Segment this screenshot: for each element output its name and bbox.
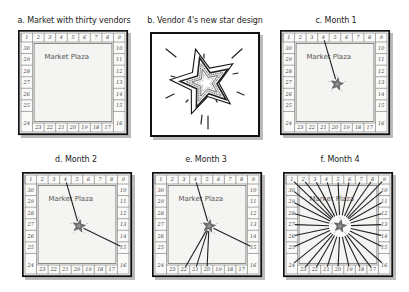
stall-15: 15 — [381, 244, 387, 250]
stall-10: 10 — [378, 45, 385, 51]
stall-30: 30 — [286, 45, 293, 51]
plaza-label: Market Plaza — [44, 53, 89, 61]
stall-28: 28 — [23, 68, 30, 74]
stall-27: 27 — [288, 221, 296, 227]
stall-5: 5 — [333, 34, 336, 40]
stall-28: 28 — [157, 210, 164, 216]
stall-13: 13 — [378, 79, 384, 85]
stall-29: 29 — [285, 56, 293, 62]
stall-5: 5 — [336, 176, 339, 182]
stall-23: 23 — [296, 124, 303, 130]
stall-3: 3 — [52, 176, 55, 182]
stall-8: 8 — [240, 176, 243, 182]
stall-2: 2 — [298, 34, 302, 40]
panel-f-market-month4: Market Plaza1234567891011121314151617181… — [283, 172, 397, 281]
stall-13: 13 — [250, 221, 256, 227]
stall-26: 26 — [27, 233, 35, 239]
stall-4: 4 — [63, 176, 67, 182]
stall-1: 1 — [290, 176, 293, 182]
stall-3: 3 — [313, 176, 316, 182]
stall-19: 19 — [346, 266, 353, 272]
stall-27: 27 — [285, 79, 293, 85]
stall-30: 30 — [28, 187, 35, 193]
stall-19: 19 — [85, 266, 92, 272]
stall-28: 28 — [285, 68, 292, 74]
stall-29: 29 — [23, 56, 31, 62]
stall-18: 18 — [93, 124, 99, 130]
panel-c-market-month1: Market Plaza1234567891011121314151617181… — [280, 30, 394, 139]
panel-e-market-month3: Market Plaza1234567891011121314151617181… — [152, 172, 266, 281]
stall-17: 17 — [238, 266, 245, 272]
stall-19: 19 — [215, 266, 222, 272]
stall-1: 1 — [287, 34, 290, 40]
stall-10: 10 — [250, 187, 257, 193]
stall-14: 14 — [250, 233, 256, 239]
stall-26: 26 — [288, 233, 296, 239]
stall-21: 21 — [322, 266, 329, 272]
stall-8: 8 — [106, 34, 109, 40]
stall-25: 25 — [27, 244, 34, 250]
stall-22: 22 — [311, 266, 318, 272]
stall-10: 10 — [120, 187, 127, 193]
stall-8: 8 — [371, 176, 374, 182]
stall-13: 13 — [120, 221, 126, 227]
stall-11: 11 — [378, 56, 384, 62]
stall-16: 16 — [378, 120, 385, 126]
stall-11: 11 — [120, 198, 126, 204]
stall-14: 14 — [381, 233, 387, 239]
stall-8: 8 — [368, 34, 371, 40]
stall-3: 3 — [182, 176, 185, 182]
stall-30: 30 — [24, 45, 31, 51]
stall-8: 8 — [110, 176, 113, 182]
panel-d-title: d. Month 2 — [55, 155, 97, 164]
stall-15: 15 — [116, 102, 122, 108]
stall-1: 1 — [29, 176, 32, 182]
stall-28: 28 — [27, 210, 34, 216]
stall-26: 26 — [23, 91, 31, 97]
stall-23: 23 — [168, 266, 175, 272]
stall-2: 2 — [301, 176, 305, 182]
stall-4: 4 — [193, 176, 197, 182]
stall-15: 15 — [120, 244, 126, 250]
stall-17: 17 — [104, 124, 111, 130]
stall-24: 24 — [23, 120, 30, 126]
stall-12: 12 — [378, 68, 384, 74]
panel-a-title: a. Market with thirty vendors — [18, 16, 131, 25]
stall-21: 21 — [61, 266, 68, 272]
stall-10: 10 — [381, 187, 388, 193]
stall-16: 16 — [116, 120, 123, 126]
stall-5: 5 — [71, 34, 74, 40]
stall-18: 18 — [97, 266, 103, 272]
stall-22: 22 — [180, 266, 187, 272]
stall-4: 4 — [59, 34, 63, 40]
stall-12: 12 — [250, 210, 256, 216]
stall-5: 5 — [75, 176, 78, 182]
stall-20: 20 — [73, 266, 81, 272]
stall-13: 13 — [116, 79, 122, 85]
stall-27: 27 — [27, 221, 35, 227]
stall-26: 26 — [285, 91, 293, 97]
stall-21: 21 — [57, 124, 64, 130]
stall-27: 27 — [157, 221, 165, 227]
stall-14: 14 — [378, 91, 384, 97]
panel-a-market: Market Plaza1234567891011121314151617181… — [18, 30, 132, 139]
panel-b-title: b. Vendor 4's new star design — [147, 16, 263, 25]
stall-22: 22 — [308, 124, 315, 130]
stall-1: 1 — [159, 176, 162, 182]
stall-17: 17 — [366, 124, 373, 130]
stall-5: 5 — [205, 176, 208, 182]
stall-12: 12 — [381, 210, 387, 216]
stall-25: 25 — [288, 244, 295, 250]
stall-23: 23 — [38, 266, 45, 272]
stall-29: 29 — [157, 198, 165, 204]
panel-e-title: e. Month 3 — [185, 155, 227, 164]
stall-27: 27 — [23, 79, 31, 85]
stall-23: 23 — [34, 124, 41, 130]
stall-18: 18 — [358, 266, 364, 272]
stall-16: 16 — [120, 262, 127, 268]
stall-20: 20 — [334, 266, 342, 272]
stall-21: 21 — [319, 124, 326, 130]
stall-21: 21 — [191, 266, 198, 272]
stall-18: 18 — [227, 266, 233, 272]
stall-22: 22 — [46, 124, 53, 130]
